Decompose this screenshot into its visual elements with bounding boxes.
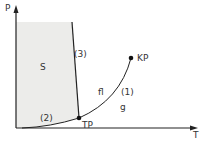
p-axis-arrow-icon (14, 5, 19, 13)
p-axis-label: P (5, 4, 10, 13)
t-axis-label: T (193, 131, 199, 140)
liquid-region-label: fl (98, 88, 104, 97)
sublimation-curve-label: (2) (40, 114, 53, 123)
critical-point-label: KP (137, 54, 148, 63)
melting-curve-label: (3) (74, 50, 87, 59)
triple-point-label: TP (82, 121, 93, 130)
gas-region-label: g (120, 103, 126, 112)
solid-region-label: S (40, 63, 46, 72)
vaporization-curve-label: (1) (121, 88, 134, 97)
critical-point-marker (129, 56, 134, 61)
triple-point-marker (77, 116, 82, 121)
phase-diagram (0, 0, 209, 141)
